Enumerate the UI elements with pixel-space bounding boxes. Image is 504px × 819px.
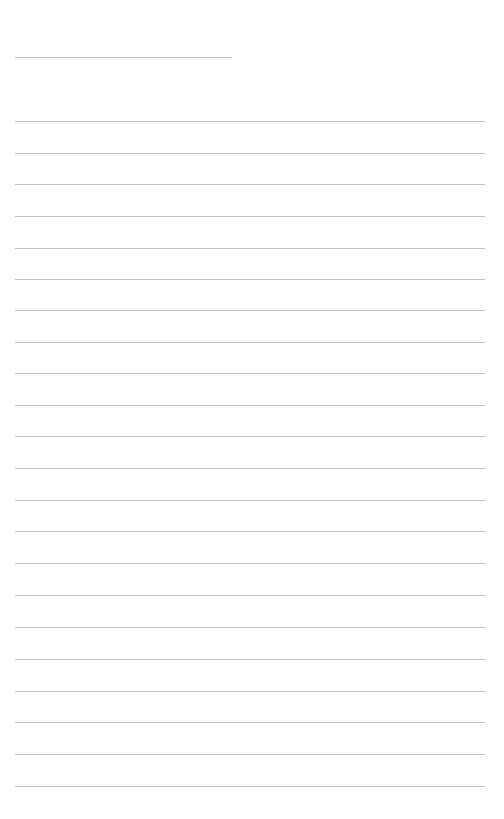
ruled-line bbox=[15, 786, 485, 787]
ruled-line bbox=[15, 342, 485, 343]
ruled-line bbox=[15, 184, 485, 185]
header-line bbox=[15, 57, 232, 58]
ruled-line bbox=[15, 595, 485, 596]
ruled-line bbox=[15, 468, 485, 469]
ruled-line bbox=[15, 691, 485, 692]
ruled-line bbox=[15, 310, 485, 311]
ruled-line bbox=[15, 279, 485, 280]
ruled-line bbox=[15, 500, 485, 501]
ruled-line bbox=[15, 373, 485, 374]
ruled-line bbox=[15, 216, 485, 217]
ruled-line bbox=[15, 754, 485, 755]
ruled-line bbox=[15, 722, 485, 723]
ruled-line bbox=[15, 531, 485, 532]
ruled-line bbox=[15, 627, 485, 628]
ruled-line bbox=[15, 121, 485, 122]
ruled-line bbox=[15, 659, 485, 660]
ruled-line bbox=[15, 563, 485, 564]
lined-paper-page bbox=[0, 0, 504, 819]
ruled-line bbox=[15, 436, 485, 437]
ruled-line bbox=[15, 248, 485, 249]
ruled-line bbox=[15, 405, 485, 406]
ruled-line bbox=[15, 153, 485, 154]
